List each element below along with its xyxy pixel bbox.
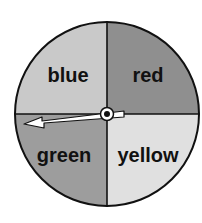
spinner-diagram: blue red green yellow	[0, 0, 202, 223]
label-green: green	[37, 144, 91, 166]
label-blue: blue	[47, 64, 88, 86]
label-yellow: yellow	[117, 144, 179, 166]
label-red: red	[132, 64, 163, 86]
